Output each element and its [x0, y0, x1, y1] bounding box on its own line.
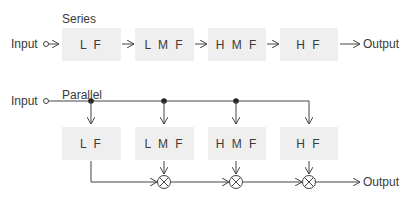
block-label: L M F: [144, 137, 184, 151]
series-block-hmf: H M F: [208, 28, 266, 61]
block-label: L M F: [144, 38, 184, 52]
series-input-label: Input: [11, 37, 38, 51]
block-label: L F: [80, 137, 103, 151]
block-label: H F: [296, 137, 321, 151]
parallel-title: Parallel: [62, 88, 102, 102]
block-label: H M F: [216, 38, 259, 52]
parallel-output-label: Output: [363, 175, 399, 189]
parallel-block-hf: H F: [280, 127, 338, 160]
block-label: H M F: [216, 137, 259, 151]
parallel-block-hmf: H M F: [208, 127, 266, 160]
diagram-lines: [0, 0, 406, 206]
series-title: Series: [62, 12, 96, 26]
series-block-lf: L F: [62, 28, 121, 61]
parallel-input-terminal-icon: [44, 99, 49, 104]
series-output-label: Output: [363, 37, 399, 51]
block-label: H F: [296, 38, 321, 52]
parallel-block-lmf: L M F: [135, 127, 194, 160]
parallel-input-label: Input: [11, 94, 38, 108]
series-block-lmf: L M F: [135, 28, 194, 61]
series-input-terminal-icon: [44, 42, 49, 47]
multiplier-icon: [158, 176, 171, 189]
block-label: L F: [80, 38, 103, 52]
multiplier-icon: [230, 176, 243, 189]
multiplier-icon: [303, 176, 316, 189]
series-block-hf: H F: [280, 28, 338, 61]
parallel-block-lf: L F: [62, 127, 121, 160]
